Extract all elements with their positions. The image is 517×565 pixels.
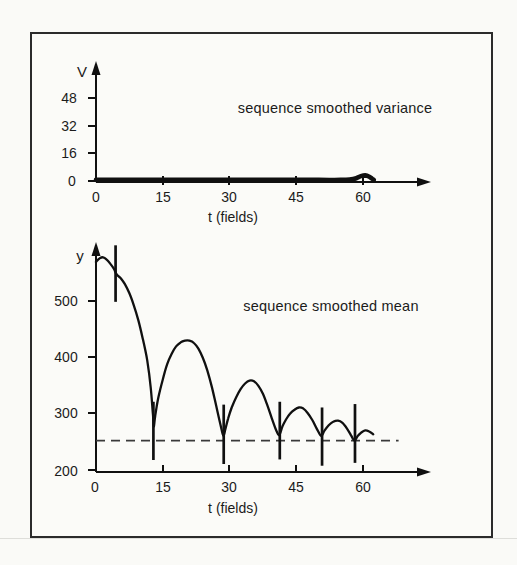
mean-y-tickmarks [88, 301, 96, 470]
variance-x-axis-label: t (fields) [208, 210, 258, 224]
mean-xtick-30: 30 [221, 480, 237, 494]
variance-plot-layer [96, 175, 374, 180]
variance-y-axis-arrow [92, 61, 101, 75]
variance-y-tickmarks [88, 98, 96, 181]
mean-y-axis-label: y [76, 248, 84, 263]
variance-ytick-16: 16 [61, 146, 77, 160]
mean-xtick-15: 15 [155, 480, 171, 494]
variance-chart-title: sequence smoothed variance [238, 101, 433, 116]
variance-xtick-30: 30 [221, 190, 237, 204]
variance-xtick-60: 60 [355, 190, 371, 204]
mean-xtick-45: 45 [288, 480, 304, 494]
variance-xtick-0: 0 [92, 190, 100, 204]
mean-xtick-0: 0 [91, 480, 99, 494]
variance-ytick-32: 32 [61, 119, 77, 133]
mean-ytick-400: 400 [54, 350, 77, 364]
mean-plot-layer [96, 245, 399, 465]
smoothed-variance-curve [96, 175, 374, 180]
mean-ytick-300: 300 [54, 406, 77, 420]
mean-chart-axes [88, 242, 431, 477]
mean-xtick-60: 60 [355, 480, 371, 494]
variance-chart-axes [88, 61, 431, 187]
variance-ytick-48: 48 [61, 91, 77, 105]
mean-chart-title: sequence smoothed mean [243, 299, 418, 314]
mean-x-axis-arrow [417, 468, 431, 477]
variance-x-axis-arrow [417, 178, 431, 187]
scanned-figure-page: V 48 32 16 0 0 15 30 45 60 t (fields) se… [0, 0, 517, 565]
plots-svg [0, 0, 517, 565]
smoothed-mean-curve [96, 257, 373, 440]
mean-y-axis-arrow [92, 242, 101, 256]
mean-x-axis-label: t (fields) [208, 501, 258, 515]
variance-xtick-15: 15 [155, 190, 171, 204]
variance-y-axis-label: V [77, 64, 87, 79]
mean-ytick-200: 200 [54, 464, 77, 478]
mean-ytick-500: 500 [54, 294, 77, 308]
variance-xtick-45: 45 [288, 190, 304, 204]
variance-ytick-0: 0 [68, 174, 76, 188]
